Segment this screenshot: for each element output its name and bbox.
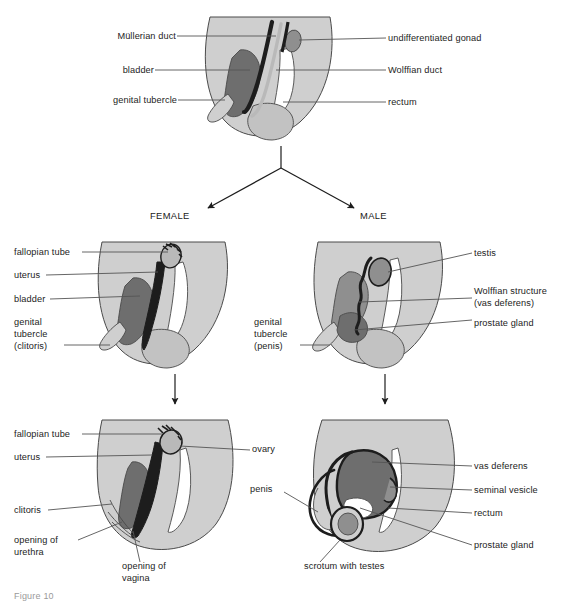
label-bladder-indifferent: bladder [18, 65, 154, 76]
figure-caption: Figure 10 [14, 591, 54, 601]
label-tubercle-female-fetal: tubercle [14, 329, 48, 340]
panel-female-fetal [46, 242, 227, 368]
gut-loop-shape [248, 103, 294, 140]
label-genital-tubercle-indifferent: genital tubercle [18, 95, 177, 106]
label-penis: penis [250, 484, 272, 495]
label-undifferentiated-gonad: undifferentiated gonad [388, 33, 481, 44]
panel-male-fetal [300, 242, 472, 368]
label-male-branch: MALE [360, 210, 387, 221]
maturation-arrows [175, 374, 385, 404]
label-uterus-female-fetal: uterus [14, 270, 40, 281]
panel-indifferent [155, 17, 386, 140]
leader-scrotum-with-testes [320, 540, 340, 562]
label-vas-deferens: vas deferens [474, 461, 528, 472]
label-genital-female-fetal: genital [14, 317, 42, 328]
label-female-branch: FEMALE [150, 210, 190, 221]
label-seminal-vesicle: seminal vesicle [474, 485, 538, 496]
branch-arrow-male [281, 168, 354, 208]
label-ovary: ovary [252, 444, 275, 455]
label-rectum-indifferent: rectum [388, 97, 417, 108]
label-opening-of-urethra-line2: urethra [14, 547, 44, 558]
label-fallopian-tube-female-fetal: fallopian tube [14, 247, 70, 258]
label-uterus-female-adult: uterus [14, 452, 40, 463]
label-clitoris: clitoris [14, 505, 41, 516]
label-wolffian-duct: Wolffian duct [388, 65, 442, 76]
label-clitoris-female-fetal: (clitoris) [14, 341, 47, 352]
label-tubercle-male-fetal: tubercle [254, 329, 288, 340]
label-vas-deferens-parenthetical: (vas deferens) [474, 298, 534, 309]
label-opening-of-urethra-line1: opening of [14, 535, 58, 546]
label-mullerian-duct: Müllerian duct [18, 31, 176, 42]
label-scrotum-with-testes: scrotum with testes [304, 561, 385, 572]
branch-arrow-female [208, 168, 281, 208]
label-prostate-gland-male-fetal: prostate gland [474, 318, 534, 329]
panel-male-adult [284, 420, 472, 562]
label-prostate-gland-male-adult: prostate gland [474, 540, 534, 551]
label-testis: testis [474, 248, 496, 259]
label-penis-male-fetal: (penis) [254, 341, 283, 352]
label-wolffian-structure: Wolffian structure [474, 286, 547, 297]
label-genital-male-fetal: genital [254, 317, 282, 328]
label-bladder-female-fetal: bladder [14, 294, 45, 305]
label-opening-of-vagina-line2: vagina [122, 573, 150, 584]
label-fallopian-tube-female-adult: fallopian tube [14, 429, 70, 440]
label-opening-of-vagina-line1: opening of [122, 561, 166, 572]
label-rectum-male-adult: rectum [474, 508, 503, 519]
branch-arrows [208, 146, 354, 208]
testis-shape-male-adult [338, 513, 358, 535]
panel-female-adult [46, 420, 250, 562]
